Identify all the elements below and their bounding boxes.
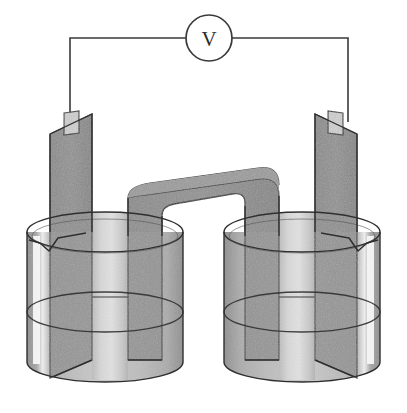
figure-canvas: V bbox=[0, 0, 407, 413]
voltmeter-label: V bbox=[201, 27, 216, 51]
galvanic-cell-diagram: V bbox=[0, 0, 407, 413]
left-beaker-highlight bbox=[33, 236, 40, 364]
voltmeter[interactable]: V bbox=[186, 15, 232, 61]
right-beaker-highlight bbox=[367, 236, 374, 364]
left-electrode-tab bbox=[64, 111, 79, 135]
right-electrode-tab bbox=[328, 111, 343, 135]
